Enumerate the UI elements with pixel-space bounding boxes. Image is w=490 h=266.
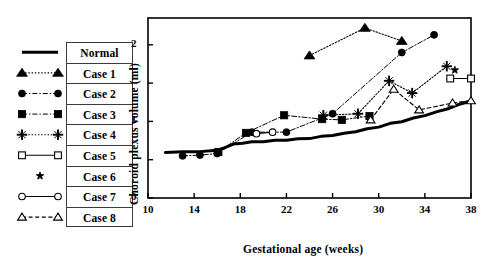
legend-row-normal[interactable]: Normal (8, 42, 133, 63)
data-point (415, 106, 424, 113)
legend-label: Case 4 (66, 124, 133, 145)
data-point (269, 129, 276, 136)
data-point (353, 109, 363, 119)
legend-row-case-2[interactable]: Case 2 (8, 83, 133, 104)
data-point (442, 61, 452, 71)
data-point (384, 76, 394, 86)
data-point (196, 152, 203, 159)
chart-legend: NormalCase 1Case 2Case 3Case 4Case 5Case… (8, 42, 133, 227)
figure-root: NormalCase 1Case 2Case 3Case 4Case 5Case… (0, 0, 490, 266)
data-point (253, 130, 260, 137)
y-axis-title: Choroid plexus volume (ml) (128, 63, 140, 205)
data-point (398, 49, 405, 56)
series-case-4 (318, 61, 452, 120)
data-point (283, 129, 290, 136)
data-point (407, 88, 417, 98)
legend-label: Case 1 (66, 63, 133, 84)
legend-label: Case 8 (66, 207, 133, 228)
legend-marker-plus (8, 124, 66, 145)
legend-marker-open-triangle (8, 207, 66, 228)
series-line (371, 89, 471, 120)
plot-frame (148, 18, 471, 198)
data-point (451, 66, 459, 73)
series-case-1 (304, 23, 407, 59)
x-axis-tick-label: 38 (463, 203, 479, 215)
series-case-6 (451, 66, 459, 73)
legend-marker-open-square (8, 145, 66, 166)
series-line (256, 132, 272, 134)
y-axis-tick-label: 1 (131, 113, 137, 125)
series-case-2 (179, 31, 437, 159)
data-point (319, 116, 326, 123)
legend-row-case-7[interactable]: Case 7 (8, 186, 133, 207)
data-point (242, 129, 249, 136)
data-point (318, 110, 328, 120)
x-axis-title: Gestational age (weeks) (243, 243, 363, 255)
series-line (323, 66, 446, 115)
legend-label: Normal (66, 42, 133, 63)
legend-marker-circle (8, 83, 66, 104)
legend-marker-open-circle (8, 186, 66, 207)
data-point (248, 129, 255, 136)
data-point (304, 51, 315, 59)
data-point (329, 110, 336, 117)
legend-label: Case 6 (66, 166, 133, 187)
series-line (310, 28, 402, 56)
series-case-5 (447, 75, 475, 82)
x-axis-tick-label: 30 (371, 203, 387, 215)
legend-label: Case 5 (66, 145, 133, 166)
x-axis-tick-label: 14 (186, 203, 202, 215)
data-point (389, 85, 398, 92)
data-point (447, 75, 454, 82)
legend-marker-square (8, 104, 66, 125)
legend-row-case-8[interactable]: Case 8 (8, 207, 133, 228)
legend-line-normal (8, 42, 66, 63)
legend-marker-star (8, 166, 66, 187)
series-line (183, 35, 434, 156)
legend-marker-triangle-up (8, 63, 66, 84)
data-point (214, 150, 221, 157)
legend-row-case-6[interactable]: Case 6 (8, 166, 133, 187)
legend-row-case-5[interactable]: Case 5 (8, 145, 133, 166)
y-axis-tick-label: 2 (131, 37, 137, 49)
data-point (396, 36, 407, 44)
legend-label: Case 2 (66, 83, 133, 104)
series-case-7 (253, 129, 276, 137)
data-point (366, 112, 373, 119)
data-point (338, 116, 345, 123)
y-axis-tick-label: 0 (131, 190, 137, 202)
x-axis-tick-label: 18 (232, 203, 248, 215)
data-point (431, 31, 438, 38)
series-case-8 (366, 85, 475, 123)
data-point (468, 75, 475, 82)
legend-label: Case 7 (66, 186, 133, 207)
series-normal (165, 101, 471, 152)
data-point (179, 152, 186, 159)
data-point (215, 148, 222, 155)
data-point (448, 99, 457, 106)
legend-row-case-3[interactable]: Case 3 (8, 104, 133, 125)
data-point (467, 97, 476, 104)
data-point (366, 116, 375, 123)
legend-row-case-4[interactable]: Case 4 (8, 124, 133, 145)
series-line (165, 101, 471, 152)
data-point (359, 23, 370, 31)
series-case-3 (215, 112, 373, 156)
x-axis-tick-label: 22 (278, 203, 294, 215)
series-line (218, 115, 369, 152)
x-axis-tick-label: 26 (325, 203, 341, 215)
legend-row-case-1[interactable]: Case 1 (8, 63, 133, 84)
legend-label: Case 3 (66, 104, 133, 125)
data-point (281, 112, 288, 119)
x-axis-tick-label: 10 (140, 203, 156, 215)
x-axis-tick-label: 34 (417, 203, 433, 215)
